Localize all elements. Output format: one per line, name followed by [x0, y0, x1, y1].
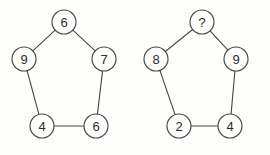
node-label-L-bottom-left: 4 [38, 119, 45, 134]
node-label-L-right: 7 [100, 52, 107, 67]
node-R-bottom-right[interactable]: 4 [218, 114, 242, 138]
node-R-right[interactable]: 9 [224, 47, 248, 71]
node-L-bottom-left[interactable]: 4 [30, 114, 54, 138]
node-label-R-left: 8 [152, 52, 159, 67]
node-label-L-bottom-right: 6 [92, 119, 99, 134]
node-label-L-left: 9 [20, 52, 27, 67]
node-label-L-top: 6 [60, 15, 67, 30]
node-label-R-bottom-left: 2 [175, 119, 182, 134]
node-label-R-bottom-right: 4 [226, 119, 233, 134]
node-L-left[interactable]: 9 [12, 47, 36, 71]
node-label-R-top: ? [198, 15, 206, 30]
pentagon-puzzle-diagram: 67649?9428 [0, 0, 270, 155]
node-R-top[interactable]: ? [190, 10, 214, 34]
node-R-bottom-left[interactable]: 2 [167, 114, 191, 138]
node-L-bottom-right[interactable]: 6 [84, 114, 108, 138]
node-R-left[interactable]: 8 [144, 47, 168, 71]
node-label-R-right: 9 [232, 52, 239, 67]
node-L-right[interactable]: 7 [92, 47, 116, 71]
node-L-top[interactable]: 6 [52, 10, 76, 34]
